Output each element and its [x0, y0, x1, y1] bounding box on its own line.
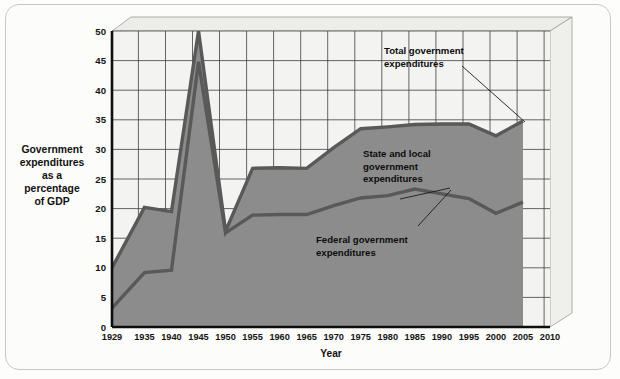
y-axis-label-line: percentage [24, 183, 80, 194]
figure-root: 05101520253035404550 1929193519401945195… [0, 0, 620, 379]
annotation-label-line: expenditures [316, 247, 376, 258]
y-tick-label: 20 [95, 203, 106, 214]
y-axis-label-line: as a [42, 170, 62, 181]
y-axis-label-line: of GDP [34, 196, 69, 207]
x-tick-label: 1985 [405, 332, 425, 342]
annotation-label-line: State and local [363, 148, 431, 159]
x-tick-label: 1965 [296, 332, 316, 342]
y-tick-label: 35 [95, 114, 106, 125]
x-axis-title: Year [320, 348, 342, 359]
x-tick-label: 2010 [540, 332, 560, 342]
depth-top-face [112, 17, 572, 31]
expenditure-area-chart: 05101520253035404550 1929193519401945195… [0, 0, 620, 379]
y-axis-label: Governmentexpendituresas apercentageof G… [20, 144, 85, 207]
y-tick-label: 40 [95, 85, 106, 96]
annotation-label-line: government [363, 161, 419, 172]
x-tick-label: 2005 [513, 332, 533, 342]
depth-right-face [550, 17, 572, 327]
y-tick-label: 5 [101, 292, 107, 303]
x-tick-label: 1940 [161, 332, 181, 342]
y-tick-label: 50 [95, 26, 106, 37]
y-axis-label-line: expenditures [20, 157, 85, 168]
x-tick-label: 1975 [351, 332, 371, 342]
x-tick-label: 1950 [215, 332, 235, 342]
y-tick-label: 0 [101, 322, 106, 333]
y-tick-label: 15 [95, 233, 106, 244]
x-tick-label: 1995 [459, 332, 479, 342]
y-axis-tick-labels: 05101520253035404550 [95, 26, 106, 333]
x-tick-label: 1955 [242, 332, 262, 342]
y-tick-label: 45 [95, 55, 106, 66]
x-axis-tick-labels: 1929193519401945195019551960196519701975… [102, 332, 560, 342]
x-tick-label: 2000 [486, 332, 506, 342]
y-tick-label: 30 [95, 144, 106, 155]
x-tick-label: 1990 [432, 332, 452, 342]
x-tick-label: 1945 [188, 332, 208, 342]
annotation-label-line: Total government [384, 45, 465, 56]
annotation-label-line: expenditures [363, 173, 423, 184]
y-axis-label-line: Government [21, 144, 83, 155]
y-tick-label: 10 [95, 262, 106, 273]
x-tick-label: 1970 [323, 332, 343, 342]
x-tick-label: 1960 [269, 332, 289, 342]
x-tick-label: 1980 [378, 332, 398, 342]
annotation-label-line: Federal government [316, 234, 409, 245]
x-tick-label: 1935 [134, 332, 154, 342]
y-tick-label: 25 [95, 174, 106, 185]
x-tick-label: 1929 [102, 332, 122, 342]
annotation-label-line: expenditures [384, 58, 444, 69]
